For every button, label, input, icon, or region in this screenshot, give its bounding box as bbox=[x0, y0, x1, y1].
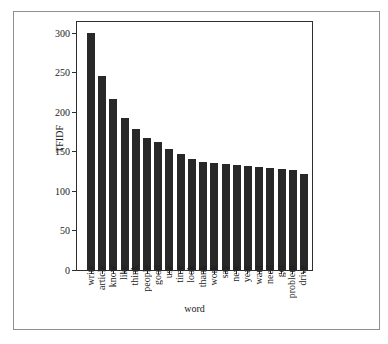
bar-use bbox=[165, 149, 173, 270]
bar-get bbox=[278, 169, 286, 270]
bar-know bbox=[109, 99, 117, 270]
x-tick-label: think bbox=[130, 265, 140, 286]
bar-need bbox=[266, 168, 274, 270]
figure-frame: 050100150200250300 TFIDF word writeartic… bbox=[13, 11, 380, 330]
x-tick-label: article bbox=[97, 265, 107, 290]
x-tick-label: year bbox=[242, 265, 252, 282]
x-tick-label: need bbox=[265, 265, 275, 284]
x-tick-label: say bbox=[220, 265, 230, 278]
bar-write bbox=[87, 33, 95, 270]
y-tick-mark bbox=[72, 33, 76, 34]
bar-like bbox=[121, 118, 129, 270]
x-tick-label: like bbox=[119, 265, 129, 280]
x-tick-label: thank bbox=[198, 265, 208, 287]
x-tick-label: time bbox=[175, 265, 185, 283]
y-tick-label: 0 bbox=[38, 265, 70, 276]
x-axis-title: word bbox=[77, 303, 312, 315]
bar-think bbox=[132, 129, 140, 270]
x-tick-label: work bbox=[209, 265, 219, 286]
bar-time bbox=[177, 154, 185, 270]
bar-work bbox=[210, 163, 218, 270]
y-tick-mark bbox=[72, 270, 76, 271]
y-tick-label: 200 bbox=[38, 107, 70, 118]
bar-article bbox=[98, 76, 106, 270]
x-tick-label: want bbox=[254, 265, 264, 284]
x-tick-label: use bbox=[164, 265, 174, 278]
y-tick-label: 250 bbox=[38, 67, 70, 78]
bar-year bbox=[244, 166, 252, 270]
bar-new bbox=[233, 165, 241, 270]
bar-good bbox=[154, 142, 162, 270]
x-tick-label: get bbox=[276, 265, 286, 277]
bar-say bbox=[222, 164, 230, 270]
bar-want bbox=[255, 167, 263, 270]
y-tick-mark bbox=[72, 72, 76, 73]
y-axis-title: TFIDF bbox=[54, 125, 65, 153]
y-tick-mark bbox=[72, 151, 76, 152]
bar-problem bbox=[289, 170, 297, 270]
x-tick-label: drive bbox=[298, 265, 308, 286]
x-tick-label: know bbox=[108, 265, 118, 287]
bar-look bbox=[188, 159, 196, 270]
y-tick-label: 300 bbox=[38, 28, 70, 39]
plot-area: 050100150200250300 bbox=[76, 21, 313, 271]
y-tick-label: 50 bbox=[38, 225, 70, 236]
x-tick-label: people bbox=[142, 265, 152, 292]
y-tick-mark bbox=[72, 191, 76, 192]
x-tick-label: new bbox=[231, 265, 241, 282]
bar-thank bbox=[199, 162, 207, 270]
x-tick-label: good bbox=[153, 265, 163, 285]
x-tick-label: write bbox=[86, 265, 96, 286]
y-tick-mark bbox=[72, 230, 76, 231]
bar-people bbox=[143, 138, 151, 270]
x-tick-label: look bbox=[186, 265, 196, 283]
bar-drive bbox=[300, 174, 308, 270]
y-tick-label: 100 bbox=[38, 186, 70, 197]
y-tick-mark bbox=[72, 112, 76, 113]
x-tick-label: problem bbox=[287, 265, 297, 298]
